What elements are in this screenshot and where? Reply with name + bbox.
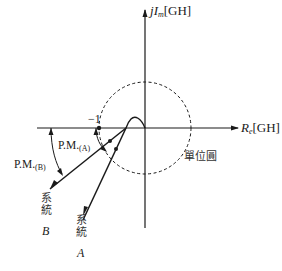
pm-b-sub: (B) xyxy=(35,163,46,172)
system-a-crossing xyxy=(114,147,118,151)
phase-margin-b-label: P.M.(B) xyxy=(14,159,46,172)
system-b-name: B xyxy=(42,225,49,237)
real-axis-label: Re[GH] xyxy=(241,121,280,136)
pm-a-sub: (A) xyxy=(79,144,90,153)
system-a-prefix: 系統 xyxy=(75,215,87,239)
imaginary-axis-label: jIm[GH] xyxy=(150,4,191,19)
pm-a-text: P.M. xyxy=(58,139,79,151)
phase-margin-a-label: P.M.(A) xyxy=(58,140,90,153)
system-a-name: A xyxy=(77,247,84,259)
critical-point xyxy=(97,126,101,130)
unit-circle-label: 單位圓 xyxy=(184,151,217,162)
nyquist-hump xyxy=(126,117,145,128)
imag-unit: [GH] xyxy=(164,3,191,18)
pm-b-text: P.M. xyxy=(14,158,35,170)
real-var: R xyxy=(241,120,249,135)
system-b-prefix: 系統 xyxy=(40,193,52,217)
phase-margin-b-arrow-bottom xyxy=(57,168,63,176)
phase-margin-b-arrow-top xyxy=(49,128,54,135)
real-unit: [GH] xyxy=(253,120,280,135)
system-b-crossing xyxy=(108,139,112,143)
system-b-curve xyxy=(50,128,126,189)
critical-point-label: −1 xyxy=(88,113,101,125)
